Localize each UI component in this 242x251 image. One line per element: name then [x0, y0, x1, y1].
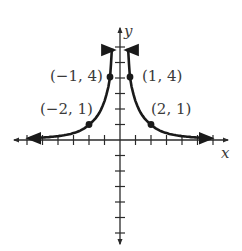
function-graph: (−1, 4) (1, 4) (−2, 1) (2, 1) x y — [0, 0, 242, 251]
label-point-m2-1: (−2, 1) — [40, 100, 93, 118]
curve-left-branch — [29, 50, 114, 138]
axes — [14, 28, 228, 244]
x-axis-label: x — [221, 144, 230, 162]
point-2-1 — [148, 121, 155, 128]
label-point-m1-4: (−1, 4) — [50, 67, 103, 85]
y-axis-label: y — [123, 22, 133, 40]
label-point-1-4: (1, 4) — [142, 67, 182, 85]
label-point-2-1: (2, 1) — [151, 100, 191, 118]
point-m2-1 — [86, 121, 93, 128]
point-1-4 — [127, 74, 134, 81]
point-m1-4 — [107, 74, 114, 81]
curve-right-branch — [126, 50, 211, 138]
